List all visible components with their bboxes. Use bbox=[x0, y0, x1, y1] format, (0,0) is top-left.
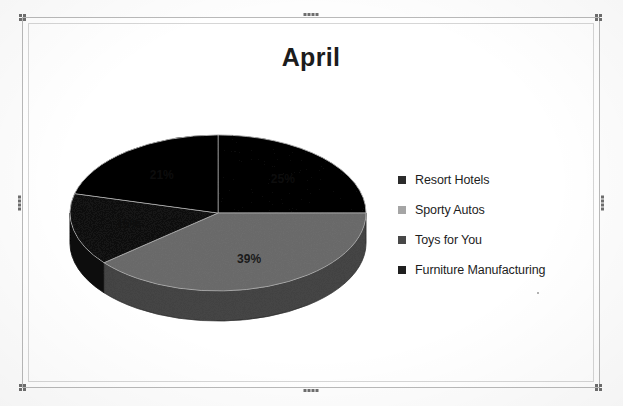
chart-object[interactable]: April 25%39%15%21% bbox=[22, 17, 600, 388]
pie-slice-label: 25% bbox=[271, 172, 295, 186]
pie-chart-plot-area[interactable]: 25%39%15%21% bbox=[58, 117, 388, 332]
legend-item[interactable]: Furniture Manufacturing bbox=[398, 255, 545, 285]
legend-swatch-icon bbox=[398, 266, 406, 274]
selection-handle-middle-right[interactable] bbox=[601, 195, 604, 210]
legend-item[interactable]: Sporty Autos bbox=[398, 195, 545, 225]
legend-item-label: Resort Hotels bbox=[415, 173, 489, 187]
chart-legend[interactable]: Resort Hotels Sporty Autos Toys for You … bbox=[398, 165, 545, 285]
selection-handle-bottom-center[interactable] bbox=[304, 389, 319, 392]
legend-swatch-icon bbox=[398, 176, 406, 184]
selection-handle-middle-left[interactable] bbox=[18, 195, 21, 210]
legend-item[interactable]: Toys for You bbox=[398, 225, 545, 255]
selection-handle-bottom-right[interactable] bbox=[595, 384, 603, 391]
legend-item-label: Sporty Autos bbox=[415, 203, 485, 217]
legend-swatch-icon bbox=[398, 236, 406, 244]
legend-item-label: Furniture Manufacturing bbox=[415, 263, 545, 277]
legend-item-label: Toys for You bbox=[415, 233, 482, 247]
pie-slice-label: 15% bbox=[116, 217, 140, 231]
chart-title: April bbox=[22, 43, 600, 72]
selection-handle-bottom-left[interactable] bbox=[19, 384, 27, 391]
document-page: April 25%39%15%21% bbox=[0, 0, 623, 406]
selection-handle-top-left[interactable] bbox=[19, 14, 27, 21]
selection-handle-top-center[interactable] bbox=[304, 13, 319, 16]
legend-swatch-icon bbox=[398, 206, 406, 214]
scan-speck bbox=[537, 292, 539, 294]
pie-slice-label: 39% bbox=[237, 252, 261, 266]
pie-chart-svg: 25%39%15%21% bbox=[58, 117, 388, 332]
selection-handle-top-right[interactable] bbox=[595, 14, 603, 21]
legend-item[interactable]: Resort Hotels bbox=[398, 165, 545, 195]
pie-slice-label: 21% bbox=[150, 168, 174, 182]
